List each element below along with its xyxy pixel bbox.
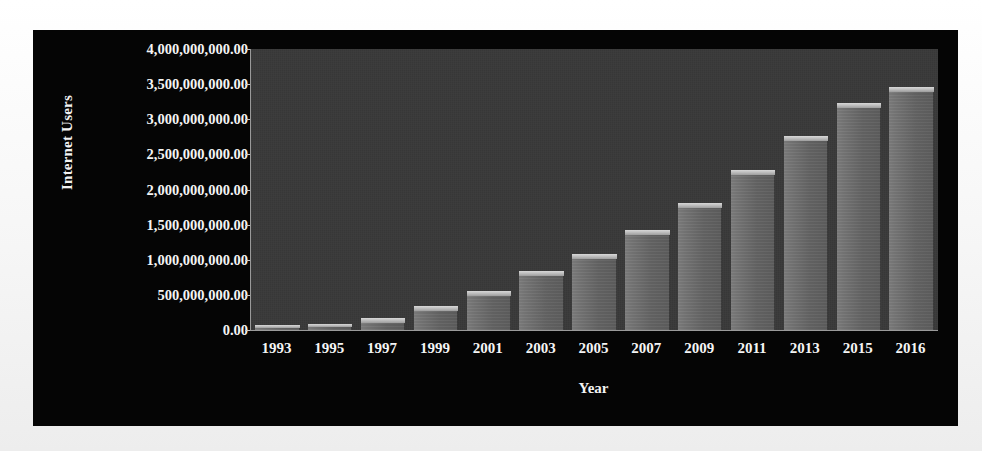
x-axis-tick-label: 2009 bbox=[673, 340, 726, 357]
bar-top-face bbox=[255, 325, 299, 328]
y-axis-tick-label: 2,500,000,000.00 bbox=[63, 147, 248, 162]
plot-area bbox=[250, 49, 938, 331]
x-axis-tick-label: 1997 bbox=[356, 340, 409, 357]
y-axis-tick-label: 4,000,000,000.00 bbox=[63, 42, 248, 57]
bar-2003[interactable] bbox=[519, 275, 563, 330]
y-axis-tick-label: 3,500,000,000.00 bbox=[63, 77, 248, 92]
bar-2016[interactable] bbox=[889, 91, 933, 330]
x-axis-tick-labels: 1993199519971999200120032005200720092011… bbox=[250, 340, 937, 357]
bar-top-face bbox=[467, 291, 511, 296]
bar-2015[interactable] bbox=[837, 107, 881, 330]
bar-top-face bbox=[308, 324, 352, 327]
bar-top-face bbox=[519, 271, 563, 276]
bar-slot bbox=[885, 49, 938, 330]
bar-top-face bbox=[414, 306, 458, 311]
bar-2013[interactable] bbox=[784, 140, 828, 330]
x-axis-tick-label: 2013 bbox=[778, 340, 831, 357]
y-axis-tick-label: 500,000,000.00 bbox=[63, 288, 248, 303]
bar-top-face bbox=[361, 318, 405, 323]
x-axis-tick-label: 1993 bbox=[250, 340, 303, 357]
bar-1993[interactable] bbox=[255, 328, 299, 330]
slide-canvas: Internet Users 0.00500,000,000.001,000,0… bbox=[0, 0, 982, 451]
bar-top-face bbox=[731, 170, 775, 175]
bar-slot bbox=[515, 49, 568, 330]
bar-1999[interactable] bbox=[414, 310, 458, 330]
bar-2009[interactable] bbox=[678, 207, 722, 330]
y-axis-tick-label: 2,000,000,000.00 bbox=[63, 182, 248, 197]
bar-slot bbox=[779, 49, 832, 330]
bar-slot bbox=[568, 49, 621, 330]
bar-slot bbox=[621, 49, 674, 330]
bar-slot bbox=[832, 49, 885, 330]
x-axis-tick-label: 2015 bbox=[831, 340, 884, 357]
x-axis-tick-label: 1999 bbox=[409, 340, 462, 357]
bar-series bbox=[251, 49, 938, 330]
bar-top-face bbox=[625, 230, 669, 235]
y-axis-tick-label: 1,500,000,000.00 bbox=[63, 217, 248, 232]
chart-panel: Internet Users 0.00500,000,000.001,000,0… bbox=[33, 30, 958, 426]
bar-2007[interactable] bbox=[625, 234, 669, 330]
bar-slot bbox=[357, 49, 410, 330]
x-axis-tick-label: 1995 bbox=[303, 340, 356, 357]
bar-top-face bbox=[837, 103, 881, 108]
x-axis-tick-label: 2001 bbox=[461, 340, 514, 357]
bar-slot bbox=[410, 49, 463, 330]
bar-slot bbox=[727, 49, 780, 330]
bar-slot bbox=[304, 49, 357, 330]
bar-top-face bbox=[572, 254, 616, 259]
x-axis-tick-label: 2011 bbox=[726, 340, 779, 357]
x-axis-tick-label: 2016 bbox=[884, 340, 937, 357]
bar-slot bbox=[251, 49, 304, 330]
bar-2005[interactable] bbox=[572, 258, 616, 330]
x-axis-tick-label: 2003 bbox=[514, 340, 567, 357]
x-axis-tick-label: 2005 bbox=[567, 340, 620, 357]
bar-2001[interactable] bbox=[467, 295, 511, 330]
bar-2011[interactable] bbox=[731, 174, 775, 330]
bar-1995[interactable] bbox=[308, 327, 352, 330]
x-axis-tick-label: 2007 bbox=[620, 340, 673, 357]
y-axis-tick-label: 3,000,000,000.00 bbox=[63, 112, 248, 127]
bar-top-face bbox=[784, 136, 828, 141]
y-axis-tick-label: 0.00 bbox=[63, 323, 248, 338]
y-axis-tick-label: 1,000,000,000.00 bbox=[63, 253, 248, 268]
bar-slot bbox=[674, 49, 727, 330]
y-axis-tick-labels: 0.00500,000,000.001,000,000,000.001,500,… bbox=[63, 49, 248, 330]
x-axis-title: Year bbox=[250, 380, 937, 397]
bar-top-face bbox=[678, 203, 722, 208]
bar-1997[interactable] bbox=[361, 322, 405, 330]
bar-slot bbox=[462, 49, 515, 330]
bar-top-face bbox=[889, 87, 933, 92]
